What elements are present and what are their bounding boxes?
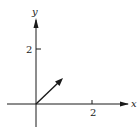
x-axis-label: x bbox=[131, 98, 137, 109]
x-axis-arrow-icon bbox=[120, 102, 129, 107]
x-axis bbox=[7, 100, 129, 107]
y-axis-arrow-icon bbox=[34, 18, 39, 28]
x-tick-label: 2 bbox=[90, 107, 96, 118]
y-tick-label: 2 bbox=[26, 44, 32, 55]
vector-diagram: 2 x 2 y bbox=[0, 0, 140, 135]
y-axis bbox=[34, 18, 42, 127]
y-axis-label: y bbox=[31, 6, 38, 17]
vector-arrow bbox=[36, 78, 63, 104]
